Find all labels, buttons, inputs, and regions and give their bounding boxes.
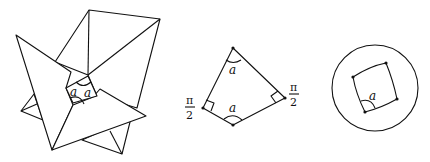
- bottom-angle-label: a: [229, 101, 236, 115]
- angle-label-a1: a: [70, 85, 77, 99]
- left-two: 2: [186, 109, 193, 122]
- right-pi: π: [290, 81, 297, 94]
- right-figure: a: [332, 45, 418, 131]
- hyperbolic-quadrilateral: [353, 63, 397, 112]
- left-pi: π: [186, 94, 193, 107]
- left-right-angle-mark: [206, 100, 214, 111]
- disk-boundary: [332, 45, 418, 131]
- figure-canvas: a a a a π 2 π 2 a: [0, 0, 430, 162]
- right-two: 2: [290, 96, 297, 109]
- top-angle-label: a: [229, 63, 236, 77]
- angle-label-a2: a: [84, 86, 91, 100]
- quadrilateral: [203, 48, 285, 125]
- bottom-angle-arc: [224, 116, 242, 120]
- left-figure: a a: [16, 10, 160, 154]
- middle-figure: a a π 2 π 2: [185, 46, 299, 126]
- angle-label: a: [369, 89, 376, 103]
- right-right-angle-mark: [271, 91, 278, 103]
